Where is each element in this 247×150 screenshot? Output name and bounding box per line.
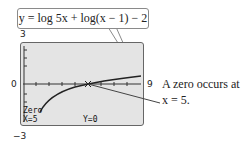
xmin-label: 0 xyxy=(11,79,17,89)
annotation-line2: x = 5. xyxy=(162,92,240,108)
annotation-line1: A zero occurs at xyxy=(162,76,240,92)
figure: y = log 5x + log(x − 1) − 2 3 0 9 −3 Zer… xyxy=(0,0,247,150)
ymax-label: 3 xyxy=(20,29,26,39)
zero-mode-label: Zero xyxy=(23,106,42,115)
xmax-label: 9 xyxy=(147,79,153,89)
y-readout: Y=0 xyxy=(83,115,97,124)
annotation: A zero occurs at x = 5. xyxy=(162,76,240,108)
ymin-label: −3 xyxy=(13,131,26,141)
plot xyxy=(0,0,247,150)
x-readout: X=5 xyxy=(23,115,37,124)
